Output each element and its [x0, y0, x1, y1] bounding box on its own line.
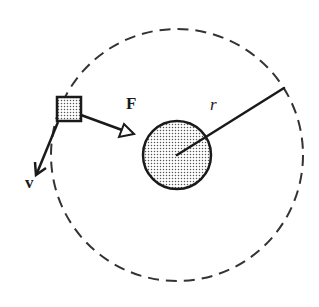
force-arrowhead-icon: [119, 124, 134, 137]
orbiting-object: [57, 97, 81, 121]
radius-line: [177, 88, 284, 155]
orbit-diagram: r F v: [0, 0, 319, 307]
force-arrow-shaft: [81, 115, 122, 130]
radius-label: r: [210, 95, 217, 114]
velocity-arrow-shaft: [37, 122, 58, 173]
force-label: F: [126, 94, 136, 113]
velocity-label: v: [25, 173, 34, 192]
